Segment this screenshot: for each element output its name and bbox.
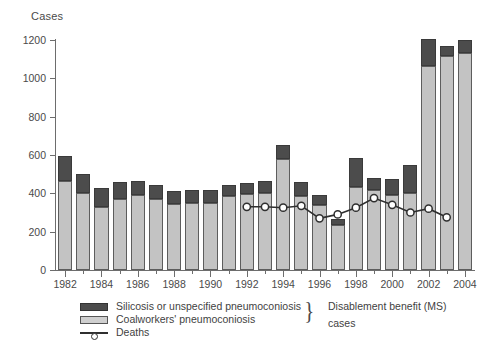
y-tick-label: 400: [12, 187, 46, 199]
deaths-line: [56, 40, 474, 270]
x-tick-label: 2004: [448, 278, 482, 290]
y-tick-label: 800: [12, 111, 46, 123]
y-tick-label: 1000: [12, 72, 46, 84]
x-tick: [283, 271, 284, 277]
x-tick: [265, 271, 266, 274]
x-tick: [210, 271, 211, 277]
x-tick-label: 2000: [375, 278, 409, 290]
deaths-marker-1992: [243, 203, 250, 210]
x-tick: [392, 271, 393, 277]
deaths-marker-1997: [334, 211, 341, 218]
x-tick-label: 1994: [266, 278, 300, 290]
legend-label-coalworkers: Coalworkers' pneumoconiosis: [116, 313, 255, 325]
deaths-marker-2002: [425, 205, 432, 212]
x-tick: [320, 271, 321, 277]
x-tick: [374, 271, 375, 274]
deaths-marker-1996: [316, 215, 323, 222]
x-tick-label: 1990: [193, 278, 227, 290]
brace-icon: }: [304, 298, 314, 324]
deaths-polyline: [247, 198, 447, 218]
y-tick-label: 0: [12, 264, 46, 276]
deaths-marker-1993: [261, 203, 268, 210]
light-square-icon: [80, 316, 108, 324]
x-tick: [429, 271, 430, 277]
deaths-marker-1994: [280, 204, 287, 211]
x-tick: [465, 271, 466, 277]
x-tick: [65, 271, 66, 277]
x-tick-label: 1986: [121, 278, 155, 290]
x-tick: [192, 271, 193, 274]
deaths-marker-1998: [352, 204, 359, 211]
annotation-line-2: cases: [328, 317, 355, 329]
x-tick: [356, 271, 357, 277]
circle-marker-icon: [91, 333, 98, 340]
y-tick: [50, 270, 56, 271]
x-tick: [410, 271, 411, 274]
legend-label-silicosis: Silicosis or unspecified pneumoconiosis: [116, 300, 301, 312]
y-axis-title: Cases: [31, 10, 63, 22]
pneumoconiosis-cases-chart: Cases 020040060080010001200 198219841986…: [0, 0, 485, 341]
deaths-marker-2001: [407, 209, 414, 216]
x-tick: [138, 271, 139, 277]
line-marker-icon: [80, 332, 108, 334]
x-tick-label: 1998: [339, 278, 373, 290]
x-tick: [301, 271, 302, 274]
deaths-marker-1995: [298, 202, 305, 209]
x-tick: [447, 271, 448, 274]
x-tick: [83, 271, 84, 274]
x-tick-label: 1982: [48, 278, 82, 290]
x-tick-label: 1984: [84, 278, 118, 290]
y-tick-label: 600: [12, 149, 46, 161]
deaths-marker-2000: [389, 201, 396, 208]
x-tick: [338, 271, 339, 274]
x-tick: [174, 271, 175, 277]
deaths-marker-2003: [443, 214, 450, 221]
x-tick: [120, 271, 121, 274]
x-tick: [229, 271, 230, 274]
x-tick: [247, 271, 248, 277]
dark-square-icon: [80, 303, 108, 311]
x-tick: [156, 271, 157, 274]
deaths-marker-1999: [370, 195, 377, 202]
y-tick-label: 200: [12, 226, 46, 238]
y-tick-label: 1200: [12, 34, 46, 46]
plot-area: [56, 40, 474, 270]
x-tick-label: 1996: [303, 278, 337, 290]
x-tick: [101, 271, 102, 277]
x-tick-label: 1992: [230, 278, 264, 290]
x-tick-label: 2002: [412, 278, 446, 290]
legend-label-deaths: Deaths: [116, 326, 149, 338]
annotation-line-1: Disablement benefit (MS): [328, 300, 446, 312]
x-tick-label: 1988: [157, 278, 191, 290]
